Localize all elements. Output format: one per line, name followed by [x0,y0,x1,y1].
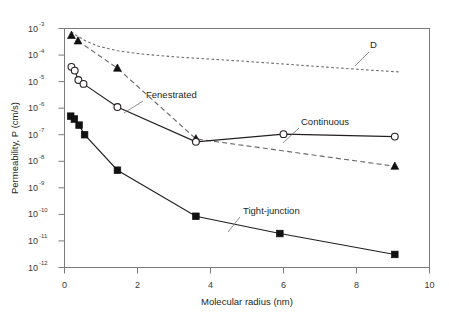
permeability-vs-molecular-radius-chart: 10 -3 10 -4 10 -5 10 -6 10 -7 10 -8 10 -… [0,0,449,332]
y-tick-label: 10 [28,263,38,273]
series-label-continuous: Continuous [301,116,349,127]
data-point-filled-square [392,251,399,258]
y-tick-exponent: -12 [39,260,48,266]
y-tick-label: 10 [28,183,38,193]
data-point-open-circle [280,131,287,138]
y-tick-exponent: -6 [39,101,45,107]
y-tick-label: 10 [28,209,38,219]
data-point-filled-square [114,167,121,174]
y-tick-exponent: -4 [39,48,45,54]
series-tight-junction [67,113,398,258]
y-tick-exponent: -10 [39,207,48,213]
x-tick-label: 4 [208,280,213,290]
plot-frame [65,29,430,268]
data-point-open-circle [114,104,121,111]
x-tick-label: 6 [281,280,286,290]
y-axis-ticks [59,29,65,268]
series-label-d: D [370,39,377,50]
data-point-filled-triangle [391,162,399,169]
data-point-filled-square [71,116,78,123]
y-axis-title: Permeability, P (cm/s) [9,102,20,194]
figure-caption [6,321,406,331]
series-d [71,32,400,72]
series-continuous [68,63,398,145]
series-line [71,32,400,72]
y-tick-label: 10 [28,103,38,113]
y-tick-exponent: -9 [39,180,45,186]
data-point-open-circle [71,67,78,74]
data-point-open-circle [391,133,398,140]
data-point-filled-square [76,122,83,129]
data-point-open-circle [193,138,200,145]
y-tick-label: 10 [28,236,38,246]
x-tick-label: 2 [135,280,140,290]
y-tick-label: 10 [28,77,38,87]
y-tick-exponent: -7 [39,127,45,133]
x-tick-label: 10 [424,280,434,290]
y-tick-exponent: -5 [39,74,45,80]
y-tick-exponent: -11 [39,233,48,239]
data-series-layer [67,31,400,258]
figure-container: 10 -3 10 -4 10 -5 10 -6 10 -7 10 -8 10 -… [0,0,449,332]
x-axis-title: Molecular radius (nm) [201,296,293,307]
x-tick-label: 8 [354,280,359,290]
y-tick-label: 10 [28,50,38,60]
data-point-filled-square [193,213,200,220]
series-fenestrated [68,31,399,169]
fenestrated-leader-line [124,101,143,113]
series-line [71,116,395,254]
x-tick-label: 0 [62,280,67,290]
data-point-filled-triangle [114,64,122,71]
d-leader-line [355,52,369,66]
series-label-fenestrated: Fenestrated [146,89,197,100]
data-point-filled-square [277,230,284,237]
y-tick-label: 10 [28,24,38,34]
y-axis-tick-labels: 10 -3 10 -4 10 -5 10 -6 10 -7 10 -8 10 -… [28,21,48,273]
series-annotations: D Fenestrated Continuous Tight-junction [146,39,377,216]
data-point-filled-square [81,131,88,138]
y-tick-exponent: -8 [39,154,45,160]
x-axis-ticks [65,268,430,274]
y-tick-label: 10 [28,156,38,166]
y-tick-exponent: -3 [39,21,45,27]
data-point-open-circle [80,81,87,88]
series-line [71,35,394,166]
y-tick-label: 10 [28,130,38,140]
x-axis-tick-labels: 0 2 4 6 8 10 [62,280,435,290]
data-point-filled-triangle [68,31,76,38]
series-label-tight-junction: Tight-junction [243,205,300,216]
